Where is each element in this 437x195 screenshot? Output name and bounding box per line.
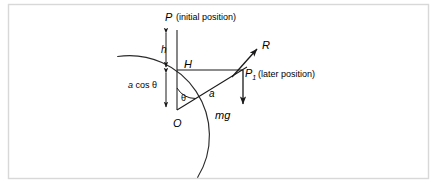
label-horizontal-distance-H: H bbox=[184, 59, 192, 70]
label-a-cos-theta-cos: cos bbox=[136, 80, 150, 90]
label-a-cos-theta: a cos θ bbox=[128, 81, 157, 90]
label-initial-position-note: (initial position) bbox=[176, 13, 236, 22]
label-initial-position-P: P bbox=[165, 12, 172, 23]
label-later-position-note: (later position) bbox=[258, 70, 315, 79]
label-center-O: O bbox=[173, 118, 182, 129]
label-weight-mg: mg bbox=[215, 110, 230, 121]
page-border bbox=[9, 5, 429, 179]
label-angle-theta: θ bbox=[181, 94, 186, 103]
label-later-position-P1: P1 bbox=[245, 68, 256, 79]
label-height-h: h bbox=[161, 45, 167, 55]
label-a-cos-theta-angle: θ bbox=[152, 80, 157, 90]
label-later-position-subscript: 1 bbox=[252, 74, 256, 81]
physics-diagram-canvas bbox=[0, 0, 437, 195]
label-radius-a: a bbox=[209, 89, 215, 99]
label-reaction-force-R: R bbox=[262, 40, 270, 51]
figure-frame: P (initial position) h H a cos θ θ a O R… bbox=[0, 0, 437, 195]
